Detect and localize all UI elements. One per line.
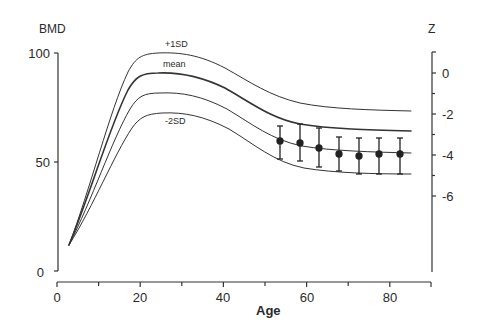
curve-minus1sd [69,93,411,245]
label-plus1sd: +1SD [165,39,188,49]
curve-minus2sd [69,113,411,245]
z-tick-minus4: -4 [442,148,454,163]
data-point-5 [356,138,362,174]
data-point-6 [376,138,382,174]
y-tick-100: 100 [28,46,50,61]
z-axis-title: Z [428,22,435,36]
z-tick-minus6: -6 [442,189,454,204]
data-point-1 [277,126,283,159]
z-tick-0: 0 [442,66,449,81]
label-minus2sd: -2SD [165,116,186,126]
data-point-4 [336,137,342,171]
z-axis [432,52,436,272]
x-tick-60: 60 [300,290,314,305]
y-axis-title: BMD [39,22,66,36]
data-point-3 [316,128,322,167]
x-axis-title: Age [256,303,281,318]
x-tick-40: 40 [216,290,230,305]
x-axis [57,282,431,287]
x-tick-20: 20 [133,290,147,305]
label-mean: mean [163,59,186,69]
bmd-age-chart: BMD Z Age 100 50 0 0 20 40 60 80 [0,0,479,336]
data-point-2 [297,124,303,161]
y-tick-0: 0 [37,265,44,280]
x-tick-80: 80 [383,290,397,305]
x-tick-0: 0 [53,290,60,305]
data-point-7 [397,138,403,174]
z-tick-minus2: -2 [442,107,454,122]
y-tick-50: 50 [36,155,50,170]
y-axis [54,53,58,271]
